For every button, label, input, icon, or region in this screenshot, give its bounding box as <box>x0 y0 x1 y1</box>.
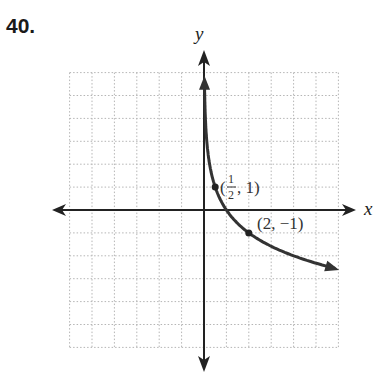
point-label-half-one: ( <box>220 178 226 197</box>
point-label-two-neg-one: (2, −1) <box>257 214 303 233</box>
point-label-half-one-rest: , 1) <box>237 178 260 197</box>
x-axis-label: x <box>363 198 373 219</box>
point-markers <box>199 76 339 272</box>
y-axis-label: y <box>193 23 204 44</box>
graph: y x (12, 1)(2, −1) <box>0 0 384 381</box>
fraction-denominator: 2 <box>228 188 234 202</box>
fraction-numerator: 1 <box>228 172 234 186</box>
point-marker <box>212 184 219 191</box>
point-labels: (12, 1)(2, −1) <box>220 172 303 233</box>
point-marker <box>245 229 252 236</box>
curve-top-arrow-icon <box>199 76 210 90</box>
curve-end-arrow-icon <box>324 261 339 272</box>
